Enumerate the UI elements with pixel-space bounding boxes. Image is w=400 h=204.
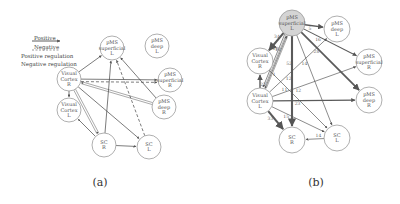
edge-line — [79, 56, 102, 72]
edge-weight-label: 27 — [260, 82, 266, 87]
node-pms-deep-l: pMSdeepL — [324, 16, 350, 42]
edge-weight-label: 14 — [316, 133, 322, 138]
node-pms-deep-r: pMSdeepR — [356, 87, 382, 113]
edge-vc_l-to-pms_deep_r: 23 — [273, 100, 355, 106]
edge-vc_l-to-sc_r: 33 — [268, 111, 284, 129]
legend-positive-label: Positive — [34, 35, 56, 41]
edge-sc_r-to-sc_l — [116, 146, 136, 147]
edge-vc_r-to-sc_l — [78, 87, 139, 139]
edge-line — [273, 100, 355, 101]
figure: Positive Negative Positive regulation Ne… — [0, 0, 400, 204]
edge-vc_r-to-pms_sup_l — [79, 56, 102, 72]
edge-arrowhead — [81, 83, 83, 84]
edge-weight-label: 52 — [286, 61, 292, 66]
legend: Positive Negative Positive regulation Ne… — [21, 35, 77, 68]
node-pms-sup-l: pMSsuperficialL — [279, 10, 306, 36]
node-label: R — [290, 139, 294, 145]
edge-line — [121, 58, 156, 98]
edge-pms_sup_l-to-pms_deep_r: 28 — [301, 32, 359, 90]
node-pms-sup-l: pMSsuperficialL — [99, 36, 126, 60]
node-label: R — [162, 109, 166, 115]
edge-sc_l-to-sc_r: 14 — [306, 133, 324, 139]
edges — [69, 56, 157, 147]
node-pms-sup-r: pMSsuperficialR — [356, 49, 383, 75]
edge-pms_deep_r-to-pms_sup_l — [121, 58, 156, 98]
edge-pms_sup_l-to-pms_deep_l: 5 — [305, 25, 323, 31]
edge-line — [82, 82, 153, 103]
node-label: R — [367, 102, 371, 108]
edge-weight-label: 23 — [295, 101, 301, 106]
edge-line — [116, 146, 136, 147]
edge-weight-label: 16 — [315, 37, 321, 42]
edge-weight-label: 34 — [274, 34, 280, 39]
node-pms-deep-l: pMSdeepL — [145, 34, 169, 58]
edge-pms_sup_l-to-sc_r: 52 — [286, 36, 292, 126]
edge-line — [306, 139, 324, 140]
edge-line — [81, 82, 157, 83]
edges: 53416285213181412127122333151114 — [260, 25, 359, 140]
edge-line — [81, 79, 157, 80]
node-label: R — [367, 64, 371, 70]
edge-weight-label: 33 — [268, 116, 274, 121]
node-vc-l: VisualCortexL — [247, 88, 273, 114]
edge-sc_r-to-pms_sup_l — [105, 61, 111, 133]
edge-weight-label: 11 — [282, 87, 288, 92]
edge-vc_l-to-vc_r: 27 — [260, 75, 266, 88]
node-sc-r: SCR — [92, 133, 116, 157]
edge-weight-label: 15 — [283, 114, 289, 119]
edge-vc_r-to-pms_sup_r — [81, 82, 157, 83]
panel-b-graph: 53416285213181412127122333151114pMSsuper… — [247, 10, 383, 153]
edge-line — [105, 61, 111, 133]
node-sc-l: SCL — [324, 125, 350, 151]
node-label: R — [168, 82, 172, 88]
caption-a: (a) — [92, 176, 107, 189]
edge-sc_l-to-pms_sup_l — [117, 60, 145, 136]
edge-weight-label: 5 — [309, 26, 312, 31]
node-label: R — [102, 144, 106, 150]
node-vc-l: VisualCortexL — [57, 98, 81, 122]
edge-weight-label: 12 — [295, 88, 301, 93]
edge-line — [78, 87, 139, 139]
edge-pms_deep_r-to-vc_r — [81, 82, 153, 105]
edge-line — [301, 32, 359, 90]
node-vc-r: VisualCortexR — [247, 48, 273, 74]
node-sc-l: SCL — [137, 135, 161, 159]
node-vc-r: VisualCortexR — [57, 67, 81, 91]
nodes: pMSsuperficialLpMSdeepLpMSsuperficialRpM… — [57, 34, 184, 159]
edge-vc_r-to-pms_sup_r — [81, 79, 157, 80]
edge-line — [117, 60, 145, 136]
edge-arrowhead — [97, 132, 98, 134]
edge-weight-label: 18 — [273, 46, 279, 51]
node-sc-r: SCR — [279, 127, 305, 153]
caption-b: (b) — [308, 176, 324, 189]
edge-weight-label: 12 — [286, 76, 292, 81]
edge-line — [81, 84, 152, 105]
node-label: R — [67, 81, 71, 87]
legend-positive-regulation-label: Positive regulation — [21, 53, 74, 60]
node-pms-sup-r: pMSsuperficialR — [157, 68, 184, 92]
node-pms-deep-r: pMSdeepR — [152, 95, 176, 119]
panel-a-graph: pMSsuperficialLpMSdeepLpMSsuperficialRpM… — [57, 34, 184, 159]
node-label: R — [258, 63, 262, 69]
